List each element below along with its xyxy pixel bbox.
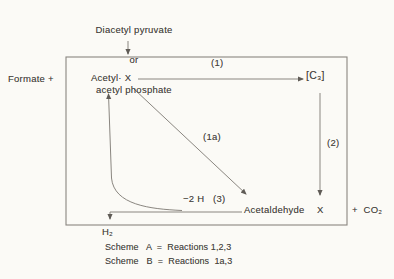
reaction-1a-label: (1a) — [203, 131, 221, 142]
formate-label: Formate + — [8, 73, 54, 84]
source-line-1: Diacetyl pyruvate — [95, 25, 172, 35]
source-line-2: or — [95, 55, 172, 65]
reaction-2-label: (2) — [327, 137, 339, 148]
c3-node-label: [C₃] — [306, 70, 325, 81]
co2-label: + CO₂ — [352, 204, 382, 215]
caption-scheme-b: Scheme B = Reactions 1a,3 — [105, 256, 232, 267]
acetyl-x-node-label: Acetyl· X — [91, 72, 131, 83]
substrate-source-label: Diacetyl pyruvate or acetyl phosphate — [95, 5, 172, 115]
caption-scheme-a: Scheme A = Reactions 1,2,3 — [105, 242, 231, 253]
reaction-scheme-figure: Diacetyl pyruvate or acetyl phosphate Fo… — [0, 0, 394, 279]
h2-label: H₂ — [102, 226, 113, 237]
x-product-node-label: X — [317, 204, 324, 215]
reaction-3-h2-arrow — [110, 212, 242, 219]
reaction-1-label: (1) — [211, 57, 223, 68]
source-line-3: acetyl phosphate — [95, 85, 172, 95]
acetaldehyde-node-label: Acetaldehyde — [244, 204, 305, 215]
reaction-3-label: −2 H (3) — [183, 193, 225, 204]
